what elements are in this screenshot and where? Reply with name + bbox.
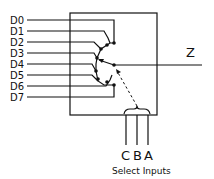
select-label-b: B <box>133 148 142 163</box>
switch-wiper <box>98 59 116 67</box>
input-label-d0: D0 <box>10 15 24 26</box>
select-brace <box>124 106 150 114</box>
input-label-d3: D3 <box>10 48 24 59</box>
input-label-d7: D7 <box>10 92 24 103</box>
multiplexer-diagram: D0 D1 D2 D3 D4 D5 D6 D7 <box>0 0 214 179</box>
input-label-d6: D6 <box>10 81 24 92</box>
input-label-d5: D5 <box>10 70 24 81</box>
input-label-d4: D4 <box>10 59 24 70</box>
select-label-a: A <box>144 148 153 163</box>
input-label-d2: D2 <box>10 37 24 48</box>
select-label-c: C <box>121 148 130 163</box>
output-label-z: Z <box>186 45 195 60</box>
select-inputs-caption: Select Inputs <box>112 166 171 176</box>
control-arrow <box>116 69 137 106</box>
input-label-d1: D1 <box>10 26 24 37</box>
